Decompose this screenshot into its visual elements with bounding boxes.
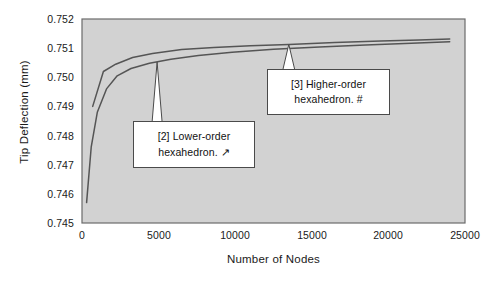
annotation-higher-order-line2: hexahedron. # xyxy=(291,92,366,107)
y-tick-label: 0.752 xyxy=(32,13,74,25)
x-tick-label: 0 xyxy=(52,229,112,241)
annotation-lower-order: [2] Lower-order hexahedron. ↗ xyxy=(133,121,255,168)
annotation-higher-order: [3] Higher-order hexahedron. # xyxy=(267,69,390,115)
x-axis-title: Number of Nodes xyxy=(82,253,465,265)
y-tick-label: 0.746 xyxy=(32,188,74,200)
y-tick-label: 0.748 xyxy=(32,130,74,142)
x-tick-label: 15000 xyxy=(282,229,342,241)
x-tick-label: 20000 xyxy=(358,229,418,241)
annotation-lower-order-line2: hexahedron. ↗ xyxy=(158,145,231,160)
y-tick-label: 0.745 xyxy=(32,217,74,229)
x-tick-label: 5000 xyxy=(129,229,189,241)
annotation-higher-order-line1: [3] Higher-order xyxy=(291,77,366,92)
x-tick-label: 25000 xyxy=(435,229,495,241)
y-tick-label: 0.751 xyxy=(32,42,74,54)
y-tick-label: 0.747 xyxy=(32,159,74,171)
x-tick-label: 10000 xyxy=(205,229,265,241)
y-tick-label: 0.749 xyxy=(32,100,74,112)
annotation-lower-order-line1: [2] Lower-order xyxy=(158,129,231,144)
y-tick-label: 0.750 xyxy=(32,71,74,83)
y-axis-title: Tip Deflection (mm) xyxy=(18,42,30,182)
chart-figure: 0.752 0.751 0.750 0.749 0.748 0.747 0.74… xyxy=(0,0,497,285)
